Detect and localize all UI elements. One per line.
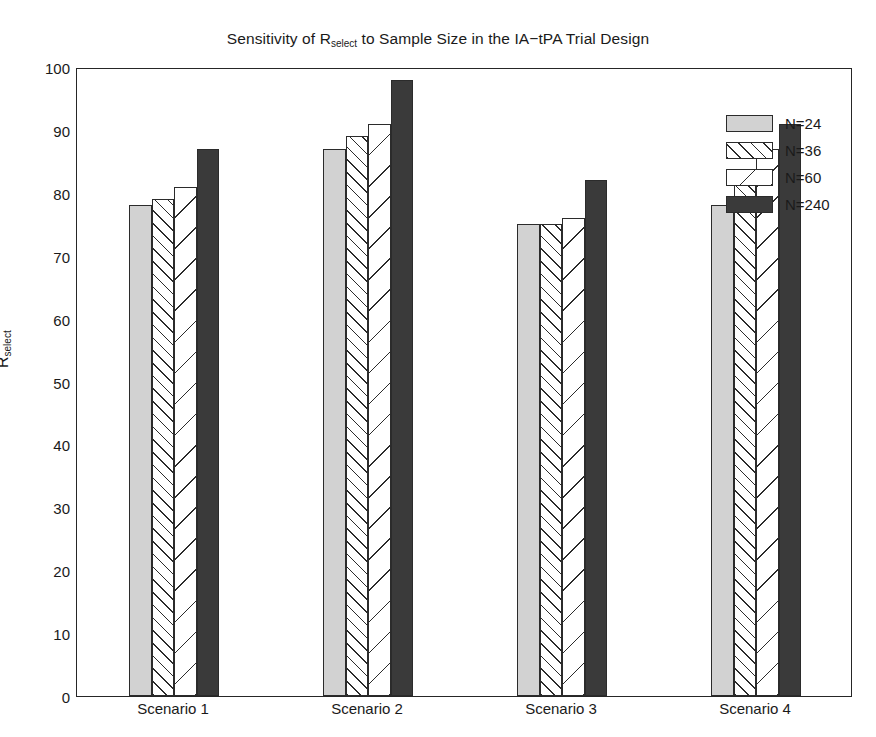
legend-label: N=24 — [785, 115, 821, 132]
legend-item[interactable]: N=36 — [726, 139, 830, 162]
chart-title-prefix: Sensitivity of R — [227, 30, 331, 47]
bar — [323, 149, 346, 696]
legend-item[interactable]: N=240 — [726, 193, 830, 216]
legend-swatch — [726, 196, 773, 213]
legend-label: N=36 — [785, 142, 821, 159]
bar — [756, 149, 779, 696]
bar — [562, 218, 585, 696]
bar — [197, 149, 220, 696]
y-tick-label: 10 — [0, 627, 70, 642]
bar — [391, 80, 414, 696]
y-tick-label: 100 — [0, 61, 70, 76]
bar — [540, 224, 563, 696]
bar — [517, 224, 540, 696]
legend-item[interactable]: N=24 — [726, 112, 830, 135]
legend-swatch — [726, 169, 773, 186]
chart-title: Sensitivity of Rselect to Sample Size in… — [0, 30, 876, 49]
bar — [129, 205, 152, 696]
legend: N=24N=36N=60N=240 — [726, 112, 830, 220]
y-tick-label: 60 — [0, 312, 70, 327]
y-tick-label: 0 — [0, 690, 70, 705]
bar — [152, 199, 175, 696]
chart-title-subscript: select — [331, 38, 357, 49]
y-tick-label: 70 — [0, 249, 70, 264]
x-tick-label: Scenario 4 — [719, 700, 791, 717]
y-tick-label: 30 — [0, 501, 70, 516]
legend-swatch — [726, 115, 773, 132]
y-axis-label-prefix: R — [0, 356, 11, 368]
y-tick-label: 80 — [0, 186, 70, 201]
figure: Sensitivity of Rselect to Sample Size in… — [0, 0, 876, 737]
legend-swatch — [726, 142, 773, 159]
bar — [585, 180, 608, 696]
x-tick-label: Scenario 3 — [525, 700, 597, 717]
y-tick-label: 50 — [0, 375, 70, 390]
bar — [346, 136, 369, 696]
bar — [711, 205, 734, 696]
y-tick-label: 40 — [0, 438, 70, 453]
y-axis-label-subscript: select — [2, 330, 13, 356]
legend-item[interactable]: N=60 — [726, 166, 830, 189]
x-tick-label: Scenario 1 — [137, 700, 209, 717]
y-tick-label: 20 — [0, 564, 70, 579]
chart-title-suffix: to Sample Size in the IA−tPA Trial Desig… — [357, 30, 649, 47]
bar — [174, 187, 197, 696]
bar — [734, 180, 757, 696]
x-tick-label: Scenario 2 — [331, 700, 403, 717]
y-axis-label: Rselect — [0, 330, 13, 368]
y-tick-label: 90 — [0, 123, 70, 138]
legend-label: N=240 — [785, 196, 830, 213]
bar — [368, 124, 391, 696]
legend-label: N=60 — [785, 169, 821, 186]
